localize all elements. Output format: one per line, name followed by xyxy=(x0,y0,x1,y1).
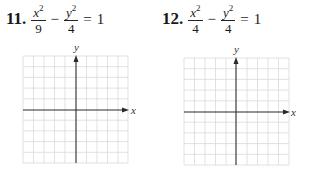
fraction-x: x2 4 xyxy=(188,2,202,36)
x-axis-label: x xyxy=(130,104,136,116)
y-axis-label: y xyxy=(73,41,79,53)
exponent: 2 xyxy=(229,3,234,13)
fraction-y: y2 4 xyxy=(221,2,235,36)
numerator-var: y xyxy=(223,5,229,20)
equals-sign: = xyxy=(240,11,248,28)
denominator: 4 xyxy=(225,21,232,36)
minus-operator: − xyxy=(208,11,216,28)
equation-12: 12. x2 4 − y2 4 = 1 xyxy=(162,2,261,36)
problem-number: 12. xyxy=(162,9,183,29)
denominator: 4 xyxy=(192,21,199,36)
exponent: 2 xyxy=(196,3,201,13)
rhs-value: 1 xyxy=(254,11,262,28)
